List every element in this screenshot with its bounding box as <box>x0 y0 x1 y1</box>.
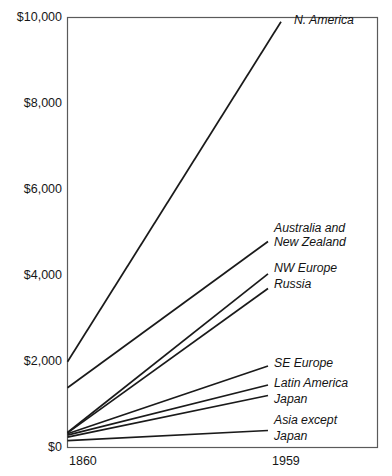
y-tick-10000: $10,000 <box>0 11 62 24</box>
series-label-latin-america: Latin America <box>274 377 348 391</box>
y-tick-2000: $2,000 <box>0 355 62 368</box>
x-tick-1959: 1959 <box>272 455 300 468</box>
series-line-nw-europe <box>68 274 269 433</box>
series-label-asia-except-japan-line2: Japan <box>274 430 307 444</box>
y-tick-6000: $6,000 <box>0 183 62 196</box>
series-label-russia: Russia <box>274 278 311 292</box>
series-label-australia-new-zealand-line1: Australia and <box>274 222 345 236</box>
series-label-australia-new-zealand-line2: New Zealand <box>274 236 346 250</box>
series-line-se-europe <box>68 366 269 434</box>
series-label-japan: Japan <box>274 393 307 407</box>
series-label-se-europe: SE Europe <box>274 357 333 371</box>
series-line-latin-america <box>68 385 269 435</box>
y-tick-8000: $8,000 <box>0 97 62 110</box>
y-tick-0: $0 <box>0 441 62 454</box>
x-tick-1860: 1860 <box>69 455 97 468</box>
series-line-russia <box>68 289 269 433</box>
series-label-nw-europe: NW Europe <box>274 262 337 276</box>
chart-figure: $10,000 $8,000 $6,000 $4,000 $2,000 $0 1… <box>0 0 392 476</box>
series-line-asia-except-japan <box>68 431 269 441</box>
series-line-japan <box>68 396 269 438</box>
y-tick-4000: $4,000 <box>0 269 62 282</box>
series-label-asia-except-japan-line1: Asia except <box>274 414 337 428</box>
series-label-n-america: N. America <box>294 14 354 28</box>
